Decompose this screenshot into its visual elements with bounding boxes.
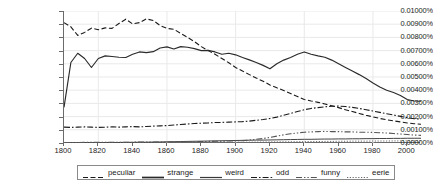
x-axis-tick-mark [303, 143, 304, 146]
legend-label: funny [321, 168, 340, 177]
legend-label: weird [225, 168, 244, 177]
y-axis-tick-label: 0.00900% [371, 20, 433, 28]
x-axis-tick-mark [338, 143, 339, 146]
x-axis-tick-label: 2000 [386, 146, 426, 155]
plot-lines [64, 11, 421, 143]
y-axis-tick-label: 0.00500% [371, 73, 433, 81]
y-axis-tick-label: 0.00400% [371, 86, 433, 94]
x-axis-tick-mark [132, 143, 133, 146]
legend-swatch-strange [142, 168, 164, 177]
legend-swatch-funny [296, 168, 318, 177]
x-axis-tick-mark [406, 143, 407, 146]
legend-swatch-odd [251, 168, 273, 177]
legend-item-odd[interactable]: odd [251, 168, 289, 177]
legend-label: odd [276, 168, 289, 177]
x-axis-tick-mark [269, 143, 270, 146]
y-axis-tick-mark [59, 90, 63, 91]
y-axis-tick-label: 0.00100% [371, 126, 433, 134]
x-axis-tick-mark [97, 143, 98, 146]
y-axis-tick-mark [59, 117, 63, 118]
x-axis-tick-mark [372, 143, 373, 146]
x-axis-tick-mark [235, 143, 236, 146]
y-axis-tick-label: 0.00300% [371, 99, 433, 107]
legend-item-peculiar[interactable]: peculiar [83, 168, 135, 177]
legend-item-funny[interactable]: funny [296, 168, 340, 177]
legend-swatch-eerie [347, 168, 369, 177]
y-axis-tick-label: 0.00200% [371, 113, 433, 121]
y-axis-tick-mark [59, 77, 63, 78]
series-line-peculiar [64, 19, 421, 124]
x-axis-tick-mark [200, 143, 201, 146]
legend-label: eerie [372, 168, 389, 177]
ngram-chart: peculiarstrangeweirdoddfunnyeerie 0.0100… [0, 0, 433, 187]
y-axis-tick-mark [59, 103, 63, 104]
legend-label: peculiar [108, 168, 135, 177]
legend-label: strange [167, 168, 193, 177]
y-axis-tick-label: 0.00700% [371, 47, 433, 55]
plot-area [63, 11, 420, 143]
legend-swatch-peculiar [83, 168, 105, 177]
legend-swatch-weird [200, 168, 222, 177]
y-axis-tick-mark [59, 37, 63, 38]
y-axis-tick-mark [59, 24, 63, 25]
y-axis-tick-mark [59, 51, 63, 52]
legend-item-eerie[interactable]: eerie [347, 168, 389, 177]
y-axis-tick-label: 0.01000% [371, 7, 433, 15]
x-axis-tick-mark [63, 143, 64, 146]
y-axis-tick-label: 0.00600% [371, 60, 433, 68]
y-axis-tick-mark [59, 130, 63, 131]
legend-item-strange[interactable]: strange [142, 168, 193, 177]
legend: peculiarstrangeweirdoddfunnyeerie [77, 165, 395, 180]
y-axis-tick-mark [59, 64, 63, 65]
x-axis-tick-mark [166, 143, 167, 146]
legend-item-weird[interactable]: weird [200, 168, 244, 177]
y-axis-tick-mark [59, 11, 63, 12]
y-axis-tick-label: 0.00800% [371, 33, 433, 41]
